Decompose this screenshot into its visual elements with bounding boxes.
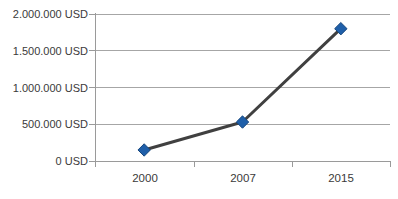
data-series-layer	[0, 0, 398, 199]
data-point-marker-2000[interactable]	[138, 144, 150, 156]
line-chart: 2.000.000 USD 1.500.000 USD 1.000.000 US…	[0, 0, 398, 199]
series-markers	[138, 23, 347, 157]
series-line-usd	[144, 29, 341, 150]
